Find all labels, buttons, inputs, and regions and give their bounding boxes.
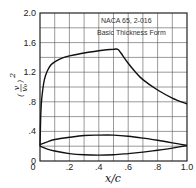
x-tick-label: .4: [95, 162, 103, 172]
y-label-exponent: 2: [8, 73, 17, 79]
y-tick-label: .4: [28, 126, 36, 136]
legend-line-1: NACA 65, 2-016: [101, 17, 152, 24]
x-tick-labels: 0.2.4.6.81.0: [30, 162, 193, 172]
x-tick-label: 0: [30, 162, 35, 172]
y-label-paren-open: (: [16, 93, 25, 97]
x-tick-label: .6: [124, 162, 132, 172]
x-tick-label: .2: [66, 162, 74, 172]
y-tick-label: 1.6: [23, 38, 36, 48]
y-label-denominator: v₀: [20, 83, 29, 92]
x-axis-label: x/c: [105, 172, 121, 185]
chart: 0.4.81.21.62.0 0.2.4.6.81.0 NACA 65, 2-0…: [0, 0, 196, 188]
y-tick-label: .8: [28, 97, 36, 107]
y-tick-label: 2.0: [23, 8, 36, 18]
y-label-paren-close: ): [16, 80, 25, 84]
y-tick-label: 1.2: [23, 67, 36, 77]
x-tick-label: 1.0: [181, 162, 194, 172]
legend-line-2: Basic Thickness Form: [97, 29, 166, 36]
x-tick-label: .8: [154, 162, 162, 172]
